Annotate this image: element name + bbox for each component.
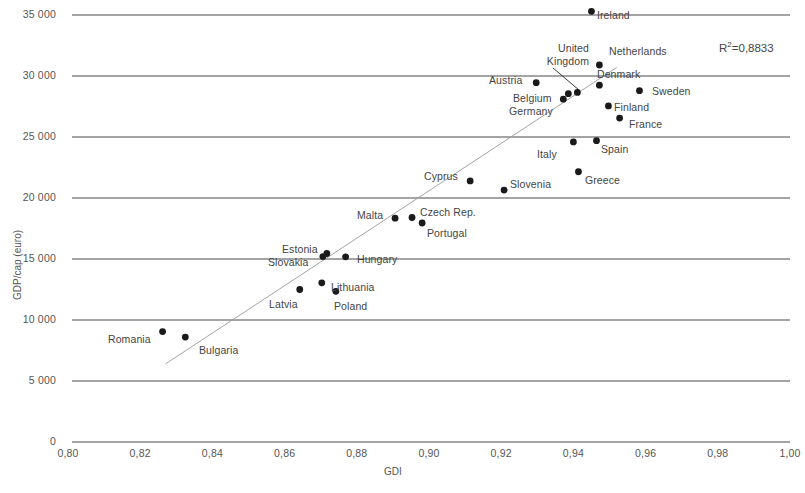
x-tick-label: 0,82 xyxy=(110,447,170,459)
data-point[interactable] xyxy=(342,253,349,260)
data-point[interactable] xyxy=(560,96,567,103)
data-point[interactable] xyxy=(159,328,166,335)
y-tick-label: 35 000 xyxy=(0,8,56,20)
data-point[interactable] xyxy=(319,253,326,260)
point-label-denmark: Denmark xyxy=(597,68,640,80)
point-label-portugal: Portugal xyxy=(427,227,467,239)
point-label-belgium: Belgium xyxy=(513,92,552,104)
y-tick-label: 20 000 xyxy=(0,191,56,203)
point-label-slovenia: Slovenia xyxy=(510,178,551,190)
scatter-chart: 05 00010 00015 00020 00025 00030 00035 0… xyxy=(0,0,805,493)
y-tick-label: 5 000 xyxy=(0,374,56,386)
data-point[interactable] xyxy=(574,89,581,96)
y-tick-label: 15 000 xyxy=(0,252,56,264)
point-label-france: France xyxy=(629,118,662,130)
data-point[interactable] xyxy=(575,168,582,175)
leader-lines xyxy=(553,68,578,89)
point-label-slovakia: Slovakia xyxy=(268,256,309,268)
point-label-greece: Greece xyxy=(585,174,620,186)
point-label-malta: Malta xyxy=(357,209,383,221)
point-label-italy: Italy xyxy=(537,148,557,160)
point-label-germany: Germany xyxy=(509,105,553,117)
data-point[interactable] xyxy=(409,214,416,221)
point-label-united-kingdom: UnitedKingdom xyxy=(533,42,589,68)
x-tick-label: 0,86 xyxy=(255,447,315,459)
x-tick-label: 0,92 xyxy=(471,447,531,459)
point-label-spain: Spain xyxy=(601,143,628,155)
point-label-austria: Austria xyxy=(489,74,522,86)
y-tick-label: 0 xyxy=(0,435,56,447)
data-point[interactable] xyxy=(593,137,600,144)
data-point[interactable] xyxy=(419,220,426,227)
data-point[interactable] xyxy=(616,115,623,122)
data-point[interactable] xyxy=(588,8,595,15)
point-label-finland: Finland xyxy=(614,101,649,113)
x-tick-label: 0,80 xyxy=(38,447,98,459)
data-point[interactable] xyxy=(501,187,508,194)
data-point[interactable] xyxy=(570,138,577,145)
data-point[interactable] xyxy=(392,215,399,222)
data-point[interactable] xyxy=(533,79,540,86)
plot-area xyxy=(0,0,805,493)
x-tick-label: 0,88 xyxy=(327,447,387,459)
y-axis-title: GDP/cap (euro) xyxy=(12,230,23,300)
x-tick-label: 0,96 xyxy=(616,447,676,459)
x-axis-title: GDI xyxy=(384,466,402,477)
x-tick-label: 0,84 xyxy=(182,447,242,459)
data-point[interactable] xyxy=(605,102,612,109)
x-tick-label: 1,00 xyxy=(760,447,805,459)
leader-line-united-kingdom xyxy=(553,68,578,89)
data-point[interactable] xyxy=(636,87,643,94)
data-point[interactable] xyxy=(296,286,303,293)
point-label-ireland: Ireland xyxy=(597,9,630,21)
point-label-netherlands: Netherlands xyxy=(609,45,667,57)
r-squared-text: R2=0,8833 xyxy=(719,42,774,54)
point-label-lithuania: Lithuania xyxy=(331,281,375,293)
point-label-hungary: Hungary xyxy=(357,253,397,265)
point-label-bulgaria: Bulgaria xyxy=(199,344,238,356)
point-label-czech-rep: Czech Rep. xyxy=(420,206,476,218)
x-tick-label: 0,98 xyxy=(688,447,748,459)
data-point[interactable] xyxy=(596,82,603,89)
y-tick-label: 10 000 xyxy=(0,313,56,325)
point-label-sweden: Sweden xyxy=(652,85,691,97)
point-label-poland: Poland xyxy=(334,300,367,312)
y-tick-label: 30 000 xyxy=(0,69,56,81)
point-label-cyprus: Cyprus xyxy=(424,170,458,182)
point-label-estonia: Estonia xyxy=(282,243,318,255)
point-label-romania: Romania xyxy=(108,333,151,345)
data-point[interactable] xyxy=(318,279,325,286)
x-tick-label: 0,90 xyxy=(399,447,459,459)
data-point[interactable] xyxy=(467,178,474,185)
data-point[interactable] xyxy=(565,90,572,97)
point-label-latvia: Latvia xyxy=(269,298,298,310)
x-tick-label: 0,94 xyxy=(543,447,603,459)
y-tick-label: 25 000 xyxy=(0,130,56,142)
r-squared-annotation: R2=0,8833 xyxy=(719,40,774,54)
data-point[interactable] xyxy=(182,334,189,341)
